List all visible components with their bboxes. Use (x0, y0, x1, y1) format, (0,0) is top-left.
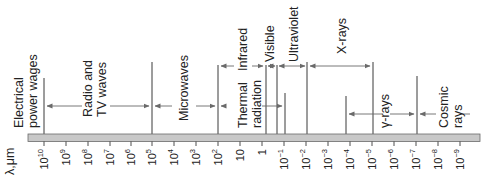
tick-label: 108 (80, 149, 94, 165)
tick-label: 107 (102, 149, 116, 165)
tick-label: 102 (210, 149, 224, 165)
label-gamma-rays: γ-rays (378, 94, 392, 128)
label-visible: Visible (263, 25, 277, 62)
tick-label: 1010 (36, 149, 50, 170)
tick-label: 10−3 (320, 149, 334, 170)
tick-label: 10−1 (276, 149, 290, 170)
tick-label: 10−6 (386, 149, 400, 170)
tick-label: 106 (123, 149, 137, 165)
tick-label: 105 (144, 149, 158, 165)
tick-label: 10−7 (408, 149, 422, 170)
electromagnetic-spectrum-diagram: Electrical power wages Radio and TV wave… (0, 0, 500, 177)
tick-label: 10−4 (342, 149, 356, 170)
label-thermal-radiation: Thermal radiation (236, 79, 264, 128)
axis-unit-label: λ,μm (3, 148, 17, 175)
tick-label: 10 (234, 149, 246, 161)
label-ultraviolet: Ultraviolet (287, 6, 301, 62)
label-cosmic-rays: Cosmic rays (437, 83, 465, 128)
axis-tick-labels: 101010910810710610510410310210110−110−21… (36, 149, 466, 170)
label-electrical-power-waves: Electrical power wages (12, 54, 40, 128)
band-labels: Electrical power wages Radio and TV wave… (12, 6, 465, 128)
tick-label: 109 (58, 149, 72, 165)
tick-label: 10−9 (452, 149, 466, 170)
tick-label: 10−2 (298, 149, 312, 170)
tick-label: 104 (166, 149, 180, 165)
label-microwaves: Microwaves (177, 55, 191, 121)
tick-label: 103 (188, 149, 202, 165)
label-infrared: Infrared (236, 28, 250, 71)
label-x-rays: X-rays (335, 18, 349, 54)
label-radio-tv-waves: Radio and TV waves (81, 57, 109, 117)
tick-label: 1 (256, 149, 268, 155)
axis-ticks (44, 142, 460, 147)
tick-label: 10−8 (430, 149, 444, 170)
tick-label: 10−5 (364, 149, 378, 170)
spectrum-bar (28, 134, 480, 142)
